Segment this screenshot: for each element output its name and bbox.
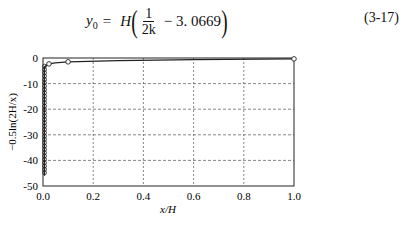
y-tick-label: -20 [23,103,38,115]
y-tick-label: -30 [23,129,38,141]
x-tick-label: 1.0 [287,190,301,202]
y-tick-label: -40 [23,154,38,166]
x-tick-label: 0.2 [86,190,100,202]
y-tick-label: -10 [23,78,38,90]
x-axis-label: x/H [159,203,177,215]
x-tick-label: 0.8 [237,190,251,202]
grid-lines [43,58,294,186]
data-point-marker [66,60,71,65]
line-chart: 0-10-20-30-40-50 0.00.20.40.60.81.0 −0.5… [0,0,419,226]
y-axis-label: −0.5ln(2H/x) [6,93,19,151]
data-point-marker [292,57,297,62]
x-tick-label: 0.4 [137,190,151,202]
x-tick-label: 0.6 [187,190,201,202]
data-series [43,57,297,176]
x-tick-label: 0.0 [36,190,50,202]
plot-frame [43,58,294,186]
x-tick-labels: 0.00.20.40.60.81.0 [36,190,301,202]
y-tick-label: 0 [33,52,39,64]
data-line [45,59,295,68]
data-point-marker [47,62,52,67]
y-tick-labels: 0-10-20-30-40-50 [23,52,38,192]
